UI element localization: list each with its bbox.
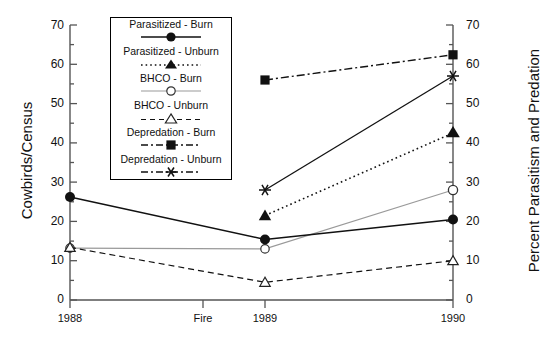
data-point xyxy=(260,235,270,245)
y-right-tick-70: 70 xyxy=(466,18,492,32)
legend-label: BHCO - Unburn xyxy=(134,99,208,112)
legend-item-bhco-unburn: BHCO - Unburn xyxy=(111,99,231,126)
data-point xyxy=(259,210,271,221)
y-left-tick-70: 70 xyxy=(38,18,64,32)
y-left-tick-10: 10 xyxy=(38,253,64,267)
series-depredation-unburn xyxy=(259,71,459,195)
legend-item-parasitized-burn: Parasitized - Burn xyxy=(111,18,231,45)
legend-item-depredation-burn: Depredation - Burn xyxy=(111,126,231,153)
x-tick-fire: Fire xyxy=(173,312,233,324)
data-point xyxy=(446,126,460,137)
y-right-tick-50: 50 xyxy=(466,96,492,110)
legend-item-bhco-burn: BHCO - Burn xyxy=(111,72,231,99)
legend-swatch-open-triangle-icon xyxy=(123,112,219,124)
legend-label: Depredation - Unburn xyxy=(121,153,222,166)
legend-label: Parasitized - Burn xyxy=(129,18,212,31)
chart-legend: Parasitized - Burn Parasitized - Unburn … xyxy=(110,17,232,180)
legend-label: BHCO - Burn xyxy=(140,72,202,85)
legend-swatch-filled-circle-icon xyxy=(123,31,219,43)
legend-label: Depredation - Burn xyxy=(127,126,216,139)
y-left-tick-30: 30 xyxy=(38,175,64,189)
y-left-tick-50: 50 xyxy=(38,96,64,110)
data-point xyxy=(448,50,457,59)
y-left-tick-0: 0 xyxy=(38,292,64,306)
x-tick-1990: 1990 xyxy=(423,312,483,324)
data-point xyxy=(65,192,75,202)
y-right-tick-20: 20 xyxy=(466,214,492,228)
x-tick-1989: 1989 xyxy=(235,312,295,324)
y-axis-right-title: Percent Parasitism and Predation xyxy=(525,31,542,291)
legend-swatch-filled-square-icon xyxy=(123,139,219,151)
series-depredation-burn xyxy=(260,50,457,84)
x-ticks xyxy=(70,300,453,308)
data-point xyxy=(260,75,269,84)
data-point xyxy=(448,185,457,194)
y-right-tick-40: 40 xyxy=(466,135,492,149)
y-left-tick-20: 20 xyxy=(38,214,64,228)
y-left-tick-60: 60 xyxy=(38,57,64,71)
data-point xyxy=(261,245,269,253)
y-axis-left-title: Cowbirds/Census xyxy=(18,61,35,261)
legend-swatch-filled-triangle-icon xyxy=(123,58,219,70)
y-left-tick-40: 40 xyxy=(38,135,64,149)
legend-swatch-open-circle-icon xyxy=(123,85,219,97)
series-parasitized-unburn xyxy=(259,126,460,220)
legend-item-depredation-unburn: Depredation - Unburn xyxy=(111,153,231,180)
data-point xyxy=(259,185,271,195)
legend-label: Parasitized - Unburn xyxy=(123,45,219,58)
legend-swatch-star-icon xyxy=(123,166,219,178)
y-right-tick-30: 30 xyxy=(466,175,492,189)
y-right-tick-0: 0 xyxy=(466,292,492,306)
y-right-tick-10: 10 xyxy=(466,253,492,267)
y-left-ticks xyxy=(70,25,77,300)
x-tick-1988: 1988 xyxy=(40,312,100,324)
data-point xyxy=(448,215,458,225)
legend-item-parasitized-unburn: Parasitized - Unburn xyxy=(111,45,231,72)
y-right-tick-60: 60 xyxy=(466,57,492,71)
